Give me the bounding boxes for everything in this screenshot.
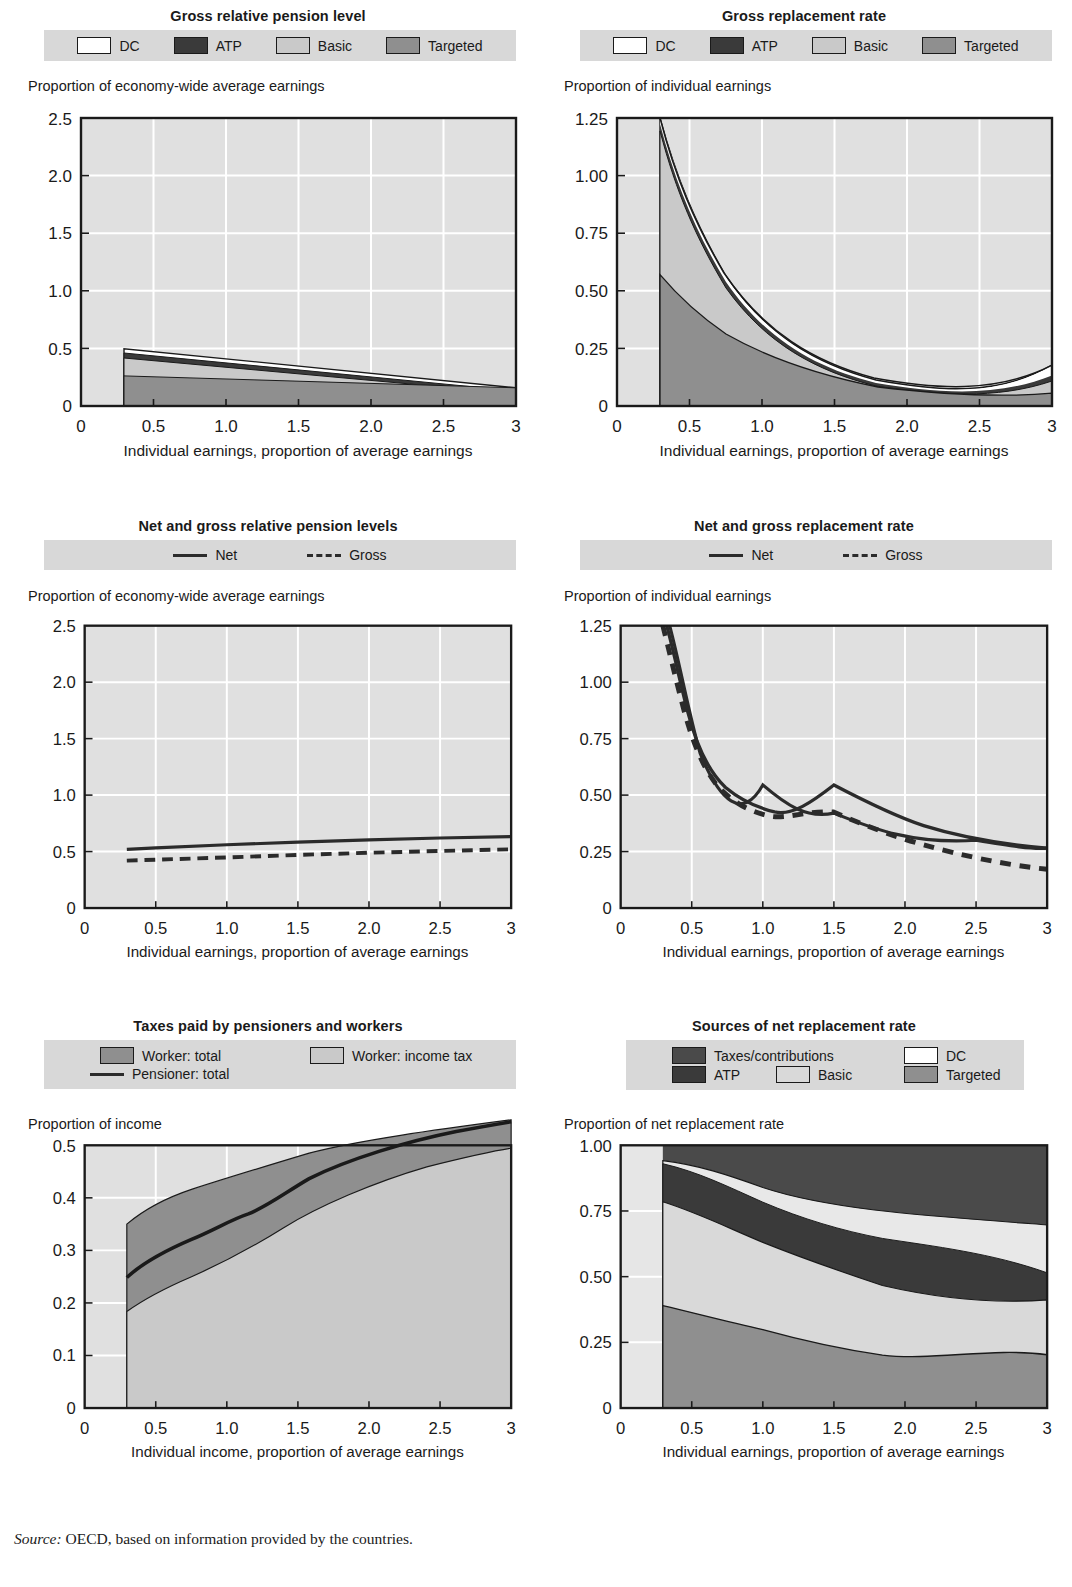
- x-tick: 3: [507, 1419, 516, 1438]
- y-tick: 0.5: [48, 340, 72, 359]
- y-tick: 1.25: [579, 617, 611, 636]
- x-tick: 3: [511, 417, 520, 436]
- source-note: Source: OECD, based on information provi…: [14, 1530, 413, 1548]
- plot-area: 0 0.25 0.50 0.75 1.00 0 0.5 1.0 1.5 2.0 …: [536, 1010, 1072, 1510]
- y-tick: 0: [603, 1399, 612, 1418]
- y-tick: 0.3: [53, 1241, 76, 1260]
- y-tick: 0.4: [53, 1189, 76, 1208]
- y-tick: 0.25: [579, 843, 611, 862]
- x-axis-label: Individual income, proportion of average…: [131, 1443, 464, 1460]
- panel-taxes-paid-by-pensioners-and-workers: Taxes paid by pensioners and workers Wor…: [0, 1010, 536, 1510]
- y-tick: 1.0: [53, 786, 76, 805]
- figure-grid: Gross relative pension level DC ATP Basi…: [0, 0, 1072, 1510]
- x-tick: 2.5: [964, 1419, 987, 1438]
- x-tick: 3: [1047, 417, 1056, 436]
- plot-area: 0 0.5 1.0 1.5 2.0 2.5 0 0.5 1.0 1.5 2.0 …: [0, 510, 536, 1010]
- y-tick: 0.50: [579, 1268, 611, 1287]
- x-tick: 2.5: [432, 417, 456, 436]
- x-tick: 1.0: [750, 417, 774, 436]
- x-tick: 1.5: [822, 919, 845, 938]
- plot-area: 0 0.5 1.0 1.5 2.0 2.5 0 0.5 1.0 1.5 2.0 …: [0, 0, 536, 510]
- y-tick: 0.5: [53, 843, 76, 862]
- y-tick: 1.00: [575, 167, 608, 186]
- y-tick: 0.50: [575, 282, 608, 301]
- y-tick: 0: [63, 397, 72, 416]
- y-tick: 1.00: [579, 673, 611, 692]
- y-tick: 0.2: [53, 1294, 76, 1313]
- y-tick: 1.5: [53, 730, 76, 749]
- x-tick: 0: [612, 417, 621, 436]
- x-tick: 2.5: [968, 417, 992, 436]
- x-axis-label: Individual earnings, proportion of avera…: [662, 1443, 1004, 1460]
- y-tick: 0.75: [575, 224, 608, 243]
- x-tick: 1.0: [215, 919, 238, 938]
- plot-area: 0 0.25 0.50 0.75 1.00 1.25 0 0.5 1.0 1.5…: [536, 0, 1072, 510]
- y-tick: 2.5: [48, 110, 72, 129]
- source-prefix: Source:: [14, 1530, 62, 1547]
- x-tick: 2.0: [895, 417, 919, 436]
- x-tick: 1.0: [751, 1419, 774, 1438]
- y-tick: 0.5: [53, 1137, 76, 1156]
- panel-gross-replacement-rate: Gross replacement rate DC ATP Basic Targ…: [536, 0, 1072, 510]
- x-tick: 3: [507, 919, 516, 938]
- y-tick: 0.25: [579, 1333, 611, 1352]
- y-tick: 0.25: [575, 340, 608, 359]
- y-tick: 0: [67, 899, 76, 918]
- panel-net-and-gross-replacement-rate: Net and gross replacement rate Net Gross…: [536, 510, 1072, 1010]
- x-axis-label: Individual earnings, proportion of avera…: [660, 442, 1009, 459]
- y-tick: 2.0: [53, 673, 76, 692]
- panel-gross-relative-pension-level: Gross relative pension level DC ATP Basi…: [0, 0, 536, 510]
- y-tick: 1.5: [48, 224, 72, 243]
- x-tick: 1.0: [751, 919, 774, 938]
- x-tick: 2.0: [357, 919, 380, 938]
- x-axis-label: Individual earnings, proportion of avera…: [662, 943, 1004, 960]
- y-tick: 0: [67, 1399, 76, 1418]
- x-tick: 2.5: [964, 919, 987, 938]
- x-tick: 0: [80, 1419, 89, 1438]
- x-tick: 1.0: [214, 417, 238, 436]
- x-tick: 3: [1043, 919, 1052, 938]
- x-tick: 0.5: [680, 1419, 703, 1438]
- y-tick: 1.0: [48, 282, 72, 301]
- y-tick: 0.50: [579, 786, 611, 805]
- source-text: OECD, based on information provided by t…: [66, 1530, 413, 1547]
- x-tick: 0.5: [144, 919, 167, 938]
- y-tick: 0: [603, 899, 612, 918]
- x-tick: 1.0: [215, 1419, 238, 1438]
- x-tick: 1.5: [286, 919, 309, 938]
- y-tick: 0: [599, 397, 608, 416]
- x-tick: 2.0: [357, 1419, 380, 1438]
- panel-sources-of-net-replacement-rate: Sources of net replacement rate Taxes/co…: [536, 1010, 1072, 1510]
- x-tick: 0: [80, 919, 89, 938]
- y-tick: 2.0: [48, 167, 72, 186]
- x-tick: 1.5: [287, 417, 311, 436]
- x-tick: 3: [1043, 1419, 1052, 1438]
- x-tick: 2.0: [359, 417, 383, 436]
- panel-net-and-gross-relative-pension-levels: Net and gross relative pension levels Ne…: [0, 510, 536, 1010]
- plot-area: 0 0.1 0.2 0.3 0.4 0.5 0 0.5 1.0 1.5 2.0 …: [0, 1010, 536, 1510]
- x-tick: 1.5: [822, 1419, 845, 1438]
- y-tick: 1.00: [579, 1137, 611, 1156]
- x-tick: 0: [616, 1419, 625, 1438]
- x-tick: 1.5: [823, 417, 847, 436]
- y-tick: 0.1: [53, 1346, 76, 1365]
- x-axis-label: Individual earnings, proportion of avera…: [124, 442, 473, 459]
- y-tick: 0.75: [579, 730, 611, 749]
- y-tick: 0.75: [579, 1202, 611, 1221]
- x-axis-label: Individual earnings, proportion of avera…: [126, 943, 468, 960]
- x-tick: 0.5: [142, 417, 166, 436]
- plot-area: 0 0.25 0.50 0.75 1.00 1.25 0 0.5 1.0 1.5…: [536, 510, 1072, 1010]
- x-tick: 0.5: [680, 919, 703, 938]
- x-tick: 2.0: [893, 1419, 916, 1438]
- x-tick: 2.5: [428, 919, 451, 938]
- x-tick: 1.5: [286, 1419, 309, 1438]
- x-tick: 2.0: [893, 919, 916, 938]
- x-tick: 2.5: [428, 1419, 451, 1438]
- y-tick: 1.25: [575, 110, 608, 129]
- x-tick: 0: [616, 919, 625, 938]
- x-tick: 0.5: [678, 417, 702, 436]
- x-tick: 0: [76, 417, 85, 436]
- y-tick: 2.5: [53, 617, 76, 636]
- x-tick: 0.5: [144, 1419, 167, 1438]
